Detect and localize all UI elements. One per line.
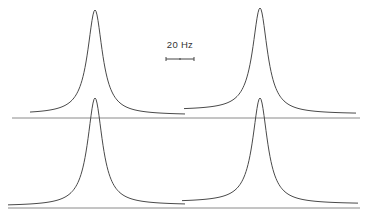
bottom-left-spectrum — [8, 98, 185, 205]
scale-bar-label: 20 Hz — [162, 39, 198, 50]
top-left-spectrum — [30, 10, 185, 114]
scale-bar — [166, 57, 194, 61]
spectra-figure — [0, 0, 368, 216]
top-right-spectrum — [184, 8, 356, 113]
bottom-right-spectrum — [182, 98, 358, 203]
